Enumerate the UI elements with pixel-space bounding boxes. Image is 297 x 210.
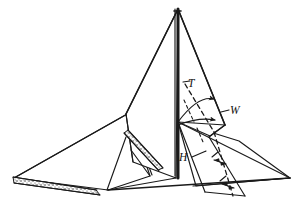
label-width: W [230,104,241,116]
tent-sketch-figure: T W H [0,0,297,210]
tent-diagram-svg: T W H [0,0,297,210]
label-height: H [178,151,188,163]
right-panel-foot [205,192,245,196]
back-canopy-panel [126,9,178,178]
width-leader-line [221,110,229,112]
right-ground-flap [178,122,290,186]
front-canopy-panel [178,9,225,137]
